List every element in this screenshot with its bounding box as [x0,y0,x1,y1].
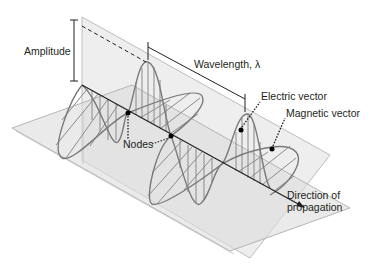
amplitude-label: Amplitude [24,45,71,57]
em-wave-diagram [0,0,375,273]
node-dot [126,111,131,116]
nodes-label: Nodes [123,138,153,150]
direction-label-line1: Direction of [287,189,340,201]
wavelength-label: Wavelength, λ [194,58,260,70]
direction-label-line2: propagation [287,201,342,213]
amplitude-bracket [70,20,78,81]
electric-vector-dot [239,128,244,133]
magnetic-vector-dot [270,147,275,152]
electric-vector-label: Electric vector [261,90,327,102]
node-dot [169,134,174,139]
magnetic-vector-label: Magnetic vector [286,107,360,119]
